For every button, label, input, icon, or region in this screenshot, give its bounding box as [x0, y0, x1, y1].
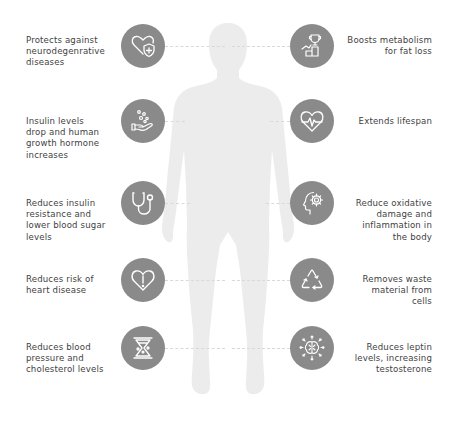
benefit-badge [121, 181, 165, 225]
benefit-label: Protects against neurodegenrative diseas… [26, 35, 118, 69]
brain-arrows-icon [298, 334, 326, 362]
benefit-label: Reduces insulin resistance and lower blo… [26, 198, 118, 243]
benefit-badge [290, 181, 334, 225]
connector-line [270, 121, 290, 122]
head-gear-icon [298, 189, 326, 217]
connector-line [165, 280, 225, 281]
heart-shield-icon [129, 32, 157, 60]
benefit-label: Reduces leptin levels, increasing testos… [332, 342, 432, 376]
connector-line [232, 280, 290, 281]
stethoscope-icon [129, 189, 157, 217]
benefit-badge [121, 326, 165, 370]
benefit-label: Reduce oxidative damage and inflammation… [332, 198, 432, 243]
heart-alert-icon [129, 266, 157, 294]
benefit-label: Boosts metabolism for fat loss [332, 35, 432, 57]
trophy-growth-icon [298, 32, 326, 60]
connector-line [266, 203, 290, 204]
connector-line [232, 348, 290, 349]
benefit-badge [290, 24, 334, 68]
hand-bubbles-icon [129, 107, 157, 135]
recycle-icon [298, 266, 326, 294]
connector-line [165, 121, 185, 122]
benefit-badge [290, 99, 334, 143]
benefit-badge [121, 24, 165, 68]
benefit-badge [121, 258, 165, 302]
benefit-label: Reduces blood pressure and cholesterol l… [26, 342, 118, 376]
benefit-label: Insulin levels drop and human growth hor… [26, 116, 118, 161]
connector-line [165, 348, 225, 349]
benefit-label: Extends lifespan [332, 116, 432, 127]
benefit-badge [290, 326, 334, 370]
connector-line [232, 46, 290, 47]
connector-line [165, 46, 225, 47]
benefit-badge [121, 99, 165, 143]
heart-pulse-icon [298, 107, 326, 135]
connector-line [165, 203, 190, 204]
benefit-label: Removes waste material from cells [332, 274, 432, 308]
benefits-infographic: Protects against neurodegenrative diseas… [0, 0, 457, 422]
hourglass-icon [129, 334, 157, 362]
benefit-label: Reduces risk of heart disease [26, 274, 118, 296]
benefit-badge [290, 258, 334, 302]
